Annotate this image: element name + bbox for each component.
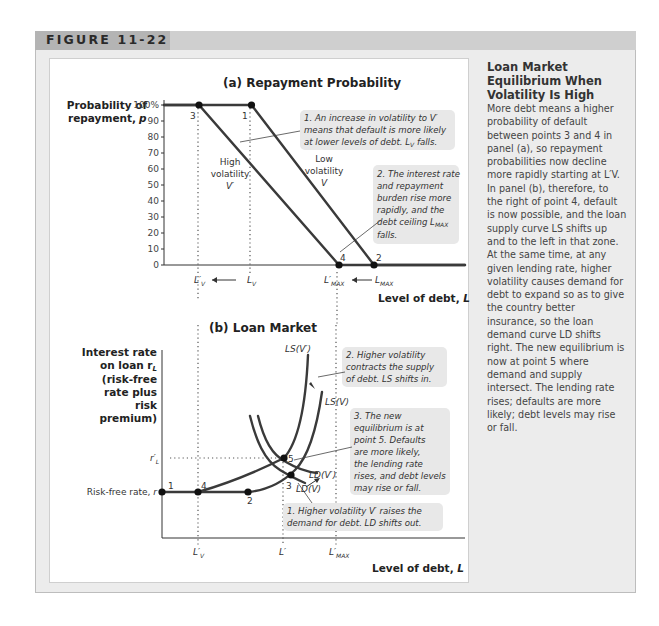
point-1-marker xyxy=(248,101,255,108)
ld-v-label: LD(V) xyxy=(296,484,321,494)
note-b2-line1: 2. Higher volatility xyxy=(346,350,426,360)
point-3-label: 3 xyxy=(190,111,196,121)
y-tick-label: 0 xyxy=(153,260,159,270)
ld-v-curve xyxy=(250,416,305,483)
ls-v-prime-label: LS(V′) xyxy=(285,344,311,354)
note-b1-line2: demand for debt. LD shifts out. xyxy=(287,518,421,528)
point-b1-marker xyxy=(158,488,165,495)
note-a2-line1: 2. The interest rate xyxy=(377,169,460,179)
xtick-b-lv-prime: L′V xyxy=(193,547,205,559)
point-b2-label: 2 xyxy=(247,496,253,506)
note-b1-line1: 1. Higher volatility V′ raises the xyxy=(287,506,422,516)
xtick-a-lmax: LMAX xyxy=(375,275,394,287)
arrow-ls-shift-head xyxy=(309,382,315,389)
y-tick-label: 70 xyxy=(148,148,160,158)
panel-b-ylabel-2: on loan rL xyxy=(100,359,157,373)
low-volatility-label-1: Low xyxy=(315,154,333,164)
note-a1-line2: means that default is more likely xyxy=(304,125,447,135)
point-b1-label: 1 xyxy=(168,481,174,491)
y-tick-label: 10 xyxy=(148,244,160,254)
y-tick-label: 60 xyxy=(148,164,160,174)
panel-b-curves xyxy=(158,355,322,496)
xtick-a-lv: LV xyxy=(247,275,257,287)
point-2-label: 2 xyxy=(376,253,382,263)
panel-a-xlabel: Level of debt, L xyxy=(378,292,470,304)
note-b3-line7: may rise or fall. xyxy=(354,483,421,493)
y-tick-label: 90 xyxy=(148,116,160,126)
xtick-a-lv-prime: L′V xyxy=(194,275,206,287)
y-tick-label: 40 xyxy=(148,196,160,206)
note-a1-line3: at lower levels of debt. LV falls. xyxy=(304,137,437,148)
panel-b: (b) Loan Market Interest rate on loan rL… xyxy=(82,321,465,574)
panel-b-ylabel-6: premium) xyxy=(99,412,157,424)
note-a2-line4: rapidly, and the xyxy=(377,205,444,215)
point-1-label: 1 xyxy=(242,111,248,121)
xtick-b-lmax-prime: L′MAX xyxy=(329,547,350,559)
note-b3-line1: 3. The new xyxy=(354,411,402,421)
note-a2-line3: burden rise more xyxy=(377,193,451,203)
note-b2-line3: of debt. LS shifts in. xyxy=(346,374,432,384)
point-b5-marker xyxy=(280,454,287,461)
note-b2-leader xyxy=(318,372,345,377)
panel-a-ylabel-line2: repayment, xyxy=(68,112,136,124)
note-b3-line3: point 5. Defaults xyxy=(353,435,426,445)
y-tick-label: 80 xyxy=(148,132,160,142)
high-volatility-label-1: High xyxy=(220,157,241,167)
ls-v-label: LS(V) xyxy=(325,397,349,407)
note-b2-line2: contracts the supply xyxy=(346,362,435,372)
y-tick-label: 50 xyxy=(148,180,160,190)
panel-a-title: (a) Repayment Probability xyxy=(223,76,401,90)
note-a2-line6: falls. xyxy=(377,230,397,240)
panel-a-ylabel-var: p xyxy=(138,112,147,124)
arrow-lv-shift-head xyxy=(212,277,217,283)
low-volatility-label-3: V xyxy=(321,178,328,188)
point-b5-label: 5 xyxy=(288,454,294,464)
panel-b-xlabel: Level of debt, L xyxy=(372,562,464,574)
arrow-lmax-shift-head xyxy=(352,277,357,283)
y-tick-label: 100% xyxy=(133,100,159,110)
panel-a-y-ticks: 0102030405060708090100% xyxy=(133,100,164,270)
note-b3-line5: the lending rate xyxy=(354,459,423,469)
panel-b-title: (b) Loan Market xyxy=(209,321,317,335)
xtick-a-lmax-prime: L′MAX xyxy=(324,275,345,287)
point-b4-label: 4 xyxy=(201,481,207,491)
charts-svg: (a) Repayment Probability Probability of… xyxy=(0,0,659,626)
note-a2-line2: and repayment xyxy=(377,181,444,191)
panel-a: (a) Repayment Probability Probability of… xyxy=(67,76,470,325)
panel-b-ylabel-1: Interest rate xyxy=(82,346,157,358)
high-volatility-label-3: V′ xyxy=(226,181,234,191)
point-b3-marker xyxy=(287,471,294,478)
panel-b-ylabel-4: rate plus xyxy=(104,386,157,398)
note-a1-leader xyxy=(240,131,300,142)
note-b3-line2: equilibrium is at xyxy=(354,423,424,433)
note-a1-line1: 1. An increase in volatility to V′ xyxy=(304,113,438,123)
point-b2-marker xyxy=(244,488,251,495)
low-volatility-label-2: volatility xyxy=(305,166,344,176)
ytick-risk-free-rate: Risk-free rate, r xyxy=(87,487,159,497)
ytick-rl-prime: r′L xyxy=(150,453,159,465)
note-b3-line6: rises, and debt levels xyxy=(354,471,446,481)
point-b3-label: 3 xyxy=(286,481,292,491)
panel-b-ylabel-5: risk xyxy=(135,399,158,411)
point-3-marker xyxy=(195,101,202,108)
xtick-b-l-prime: L′ xyxy=(279,547,286,557)
y-tick-label: 20 xyxy=(148,228,160,238)
point-4-label: 4 xyxy=(340,253,346,263)
high-volatility-label-2: volatility xyxy=(211,169,250,179)
ld-v-prime-curve xyxy=(258,416,317,473)
panel-b-ylabel-3: (risk-free xyxy=(102,373,157,385)
ld-v-prime-label: LD(V′) xyxy=(309,470,336,480)
note-b3-leader xyxy=(294,447,352,460)
note-b3-line4: are more likely, xyxy=(354,447,421,457)
y-tick-label: 30 xyxy=(148,212,160,222)
